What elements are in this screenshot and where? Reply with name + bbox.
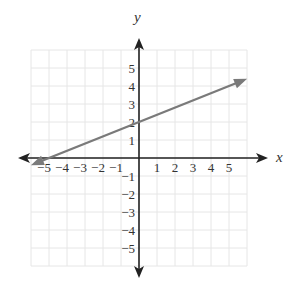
x-tick-label: 5 [226, 160, 233, 175]
y-tick-label: 1 [129, 133, 136, 148]
x-tick-label: 1 [154, 160, 161, 175]
y-tick-label: −5 [121, 241, 135, 256]
y-tick-label: 3 [129, 97, 136, 112]
y-tick-label: 2 [129, 115, 136, 130]
x-tick-label: 3 [190, 160, 197, 175]
x-tick-label: −4 [55, 160, 69, 175]
y-tick-label: −2 [121, 187, 135, 202]
y-tick-label: −3 [121, 205, 135, 220]
arrowhead-icon [31, 156, 45, 165]
x-tick-label: −2 [91, 160, 105, 175]
y-tick-label: 4 [129, 79, 136, 94]
y-tick-label: −4 [121, 223, 135, 238]
arrowhead-icon [233, 79, 247, 88]
y-tick-label: 5 [129, 61, 136, 76]
coordinate-plane: x y −5−4−3−2−112345 54321−1−2−3−4−5 [0, 0, 297, 286]
x-axis-label: x [275, 149, 283, 165]
x-tick-label: 2 [172, 160, 179, 175]
x-tick-label: −3 [73, 160, 87, 175]
x-tick-label: 4 [208, 160, 215, 175]
y-axis-label: y [132, 9, 141, 25]
y-tick-label: −1 [121, 169, 135, 184]
